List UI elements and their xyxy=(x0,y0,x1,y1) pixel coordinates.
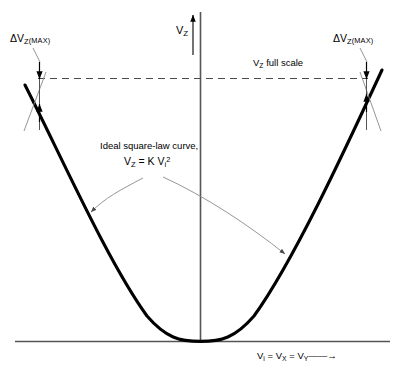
formula-exponent: 2 xyxy=(166,155,170,164)
x-axis-direction-arrow: ——→ xyxy=(308,350,337,361)
y-axis-label: VZ xyxy=(176,24,188,39)
diagram-canvas xyxy=(0,0,405,377)
x-axis-equals-2: = xyxy=(287,350,298,361)
delta-vz-max-right-symbol: ΔV xyxy=(333,32,347,44)
annotation-leader-right xyxy=(163,177,285,254)
square-law-formula: VZ = K Vi2 xyxy=(124,156,170,169)
square-law-curve xyxy=(25,70,382,341)
ideal-curve-caption: Ideal square-law curve, xyxy=(100,141,198,151)
delta-vz-max-left-symbol: ΔV xyxy=(10,32,24,44)
full-scale-label: VZ full scale xyxy=(253,58,303,69)
delta-label-leader-right xyxy=(360,48,367,62)
formula-equals: = K V xyxy=(136,155,165,167)
delta-label-leader-left xyxy=(33,48,40,62)
x-axis-equals-1: = xyxy=(265,350,276,361)
delta-vz-max-label-left: ΔVZ(MAX) xyxy=(10,33,50,46)
formula-lhs: V xyxy=(124,155,131,167)
y-axis-label-sub: Z xyxy=(183,29,188,38)
square-law-curve-figure: ΔVZ(MAX) ΔVZ(MAX) VZ VZ full scale Ideal… xyxy=(0,0,405,377)
full-scale-text: full scale xyxy=(264,57,304,68)
x-axis-label: Vi = VX = VY——→ xyxy=(257,351,337,362)
delta-vz-max-label-right: ΔVZ(MAX) xyxy=(333,33,373,46)
annotation-leader-left xyxy=(91,178,143,212)
delta-vz-max-left-qualifier: (MAX) xyxy=(29,36,51,45)
ideal-curve-caption-text: Ideal square-law curve, xyxy=(100,140,198,151)
delta-vz-max-right-qualifier: (MAX) xyxy=(352,36,374,45)
